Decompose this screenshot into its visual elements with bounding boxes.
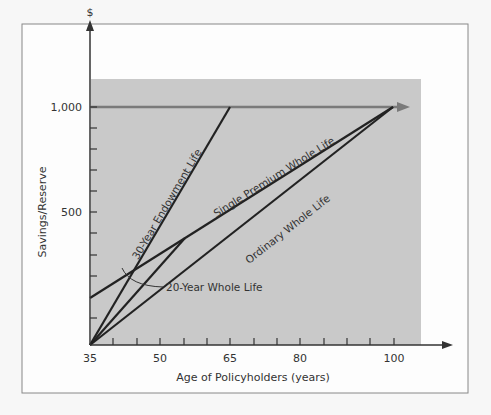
label-twenty-year: 20-Year Whole Life (166, 281, 263, 293)
x-tick-80: 80 (293, 352, 307, 365)
x-axis-label: Age of Policyholders (years) (176, 371, 330, 384)
y-axis-label: Savings/Reserve (36, 166, 49, 257)
x-tick-100: 100 (384, 352, 405, 365)
y-tick-500: 500 (61, 206, 82, 219)
x-tick-35: 35 (83, 352, 97, 365)
y-unit-label: $ (87, 6, 94, 19)
x-tick-50: 50 (153, 352, 167, 365)
y-tick-1000: 1,000 (51, 101, 83, 114)
x-tick-65: 65 (223, 352, 237, 365)
chart: $ 1,000 500 35 50 65 80 100 Age of Polic… (0, 0, 491, 415)
